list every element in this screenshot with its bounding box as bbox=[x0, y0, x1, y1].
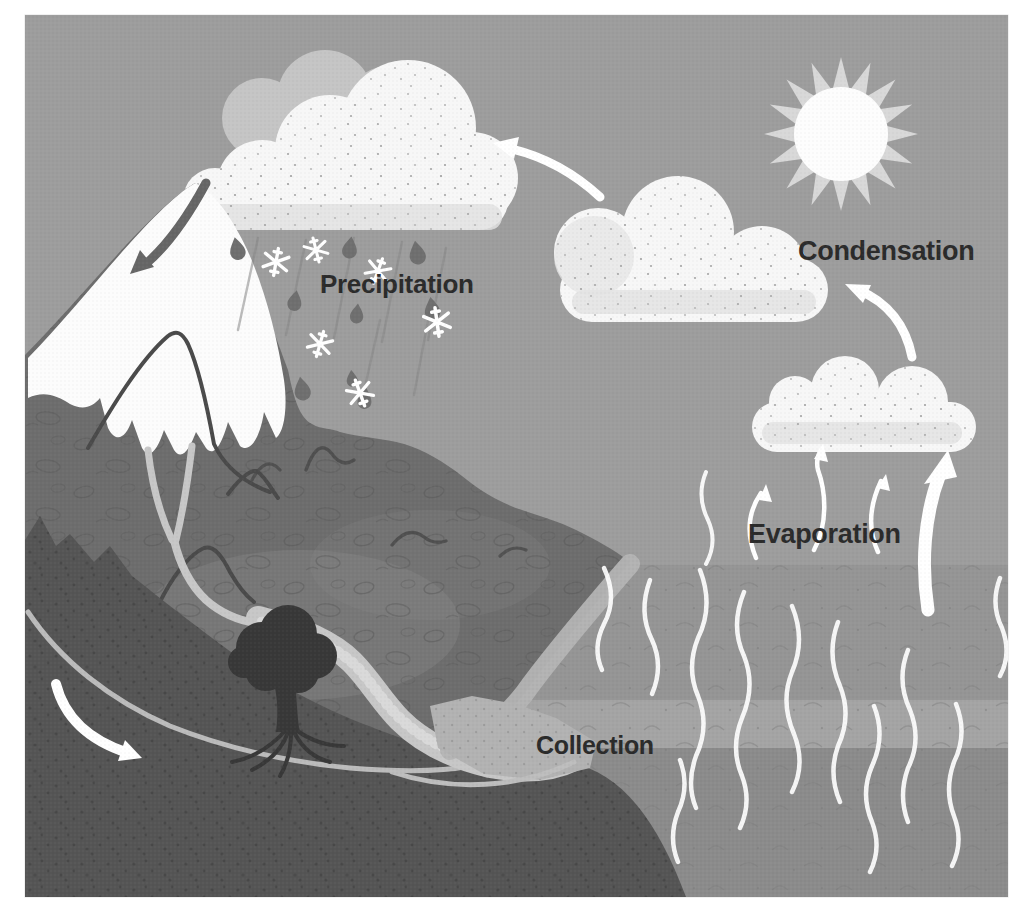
halftone-texture bbox=[25, 15, 1008, 897]
water-cycle-figure: Precipitation Condensation Evaporation C… bbox=[0, 0, 1031, 916]
